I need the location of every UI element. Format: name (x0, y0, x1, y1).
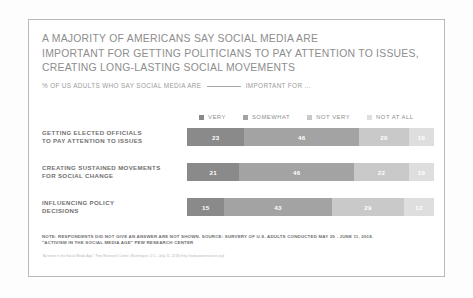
chart-inner: A MAJORITY OF AMERICANS SAY SOCIAL MEDIA… (42, 32, 434, 270)
chart-row: GETTING ELECTED OFFICIALS TO PAY ATTENTI… (42, 128, 434, 146)
subtitle-blank-line (207, 86, 241, 87)
title-line-3: CREATING LONG-LASTING SOCIAL MOVEMENTS (42, 61, 434, 76)
chart-notes: NOTE: RESPONDENTS DID NOT GIVE AN ANSWER… (42, 234, 434, 258)
chart-frame: A MAJORITY OF AMERICANS SAY SOCIAL MEDIA… (28, 19, 445, 277)
bar-value-not-at-all: 10 (418, 169, 425, 176)
subtitle-before: % OF US ADULTS WHO SAY SOCIAL MEDIA ARE (42, 82, 201, 89)
legend-item-very[interactable]: VERY (199, 114, 226, 120)
chart-page: A MAJORITY OF AMERICANS SAY SOCIAL MEDIA… (0, 0, 473, 298)
row-label-getting-elected-officials: GETTING ELECTED OFFICIALS TO PAY ATTENTI… (42, 129, 187, 145)
bar-value-somewhat: 43 (274, 204, 281, 211)
row-label-line-2: DECISIONS (42, 207, 179, 215)
legend-label-not-very: NOT VERY (316, 114, 350, 120)
bar-value-very: 21 (209, 169, 216, 176)
bar-segment-somewhat[interactable]: 43 (224, 198, 331, 216)
stacked-bar-influencing-policy-decisions: 15 43 29 12 (187, 198, 434, 216)
legend-swatch-very (199, 115, 204, 120)
stacked-bar-getting-elected-officials: 23 46 20 10 (187, 128, 434, 146)
bar-value-not-very: 22 (378, 169, 385, 176)
chart-legend: VERY SOMEWHAT NOT VERY NOT AT ALL (199, 114, 414, 120)
row-label-line-1: GETTING ELECTED OFFICIALS (42, 129, 179, 137)
chart-title: A MAJORITY OF AMERICANS SAY SOCIAL MEDIA… (42, 32, 434, 76)
bar-value-very: 15 (202, 204, 209, 211)
chart-row: CREATING SUSTAINED MOVEMENTS FOR SOCIAL … (42, 163, 434, 181)
row-label-creating-sustained-movements: CREATING SUSTAINED MOVEMENTS FOR SOCIAL … (42, 164, 187, 180)
title-line-2: IMPORTANT FOR GETTING POLITICIANS TO PAY… (42, 47, 434, 62)
legend-label-not-at-all: NOT AT ALL (376, 114, 413, 120)
bar-segment-not-at-all[interactable]: 10 (409, 163, 434, 181)
bar-value-not-at-all: 10 (418, 134, 425, 141)
stacked-bar-creating-sustained-movements: 21 46 22 10 (187, 163, 434, 181)
subtitle-after: IMPORTANT FOR ... (246, 82, 311, 89)
legend-swatch-somewhat (243, 115, 248, 120)
bar-segment-not-very[interactable]: 29 (332, 198, 404, 216)
legend-label-somewhat: SOMEWHAT (252, 114, 290, 120)
bar-value-somewhat: 46 (293, 169, 300, 176)
row-label-line-1: INFLUENCING POLICY (42, 199, 179, 207)
bar-value-very: 23 (212, 134, 219, 141)
bar-segment-very[interactable]: 15 (187, 198, 224, 216)
legend-item-not-very[interactable]: NOT VERY (307, 114, 350, 120)
bar-segment-somewhat[interactable]: 46 (239, 163, 354, 181)
row-label-line-2: FOR SOCIAL CHANGE (42, 172, 179, 180)
legend-swatch-not-very (307, 115, 312, 120)
bar-segment-somewhat[interactable]: 46 (244, 128, 359, 146)
note-line-2: "ACTIVISM IN THE SOCIAL MEDIA AGE" PEW R… (42, 240, 434, 246)
bar-value-not-very: 20 (380, 134, 387, 141)
row-label-influencing-policy-decisions: INFLUENCING POLICY DECISIONS (42, 199, 187, 215)
legend-label-very: VERY (208, 114, 226, 120)
bar-segment-very[interactable]: 23 (187, 128, 244, 146)
legend-item-somewhat[interactable]: SOMEWHAT (243, 114, 290, 120)
bar-segment-not-at-all[interactable]: 12 (404, 198, 434, 216)
bar-value-somewhat: 46 (298, 134, 305, 141)
row-label-line-1: CREATING SUSTAINED MOVEMENTS (42, 164, 179, 172)
title-line-1: A MAJORITY OF AMERICANS SAY SOCIAL MEDIA… (42, 32, 434, 47)
legend-item-not-at-all[interactable]: NOT AT ALL (367, 114, 413, 120)
legend-swatch-not-at-all (367, 115, 372, 120)
chart-row: INFLUENCING POLICY DECISIONS 15 43 29 (42, 198, 434, 216)
bar-value-not-at-all: 12 (415, 204, 422, 211)
bar-segment-not-at-all[interactable]: 10 (409, 128, 434, 146)
chart-subtitle: % OF US ADULTS WHO SAY SOCIAL MEDIA ARE … (42, 82, 434, 89)
bar-value-not-very: 29 (364, 204, 371, 211)
bar-segment-very[interactable]: 21 (187, 163, 239, 181)
row-label-line-2: TO PAY ATTENTION TO ISSUES (42, 137, 179, 145)
chart-rows: GETTING ELECTED OFFICIALS TO PAY ATTENTI… (42, 128, 434, 233)
bar-segment-not-very[interactable]: 22 (354, 163, 409, 181)
chart-citation: "Activism in the Social Media Age." Pew … (42, 254, 434, 258)
bar-segment-not-very[interactable]: 20 (359, 128, 409, 146)
